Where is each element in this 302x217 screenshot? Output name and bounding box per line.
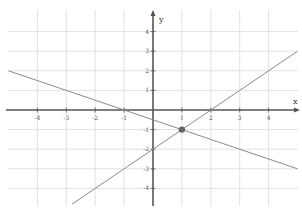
y-tick-label: -2 <box>143 145 149 152</box>
line-increasing <box>72 51 297 204</box>
x-axis-arrow-icon <box>294 108 300 113</box>
x-axis-label: x <box>293 97 298 106</box>
coordinate-plane: x y -4-3-2-112344321-1-2-3-4 <box>0 0 302 217</box>
annotations <box>179 126 185 132</box>
y-tick-label: 4 <box>145 28 149 35</box>
x-tick-label: -4 <box>34 114 40 121</box>
x-tick-label: 1 <box>180 114 184 121</box>
y-axis-arrow-icon <box>151 10 156 16</box>
x-tick-label: -1 <box>121 114 127 121</box>
x-tick-label: -3 <box>63 114 69 121</box>
x-tick-label: 4 <box>267 114 271 121</box>
intersection-point <box>179 126 185 132</box>
axes: x y <box>6 10 300 206</box>
x-tick-label: -2 <box>92 114 98 121</box>
y-tick-label: 3 <box>145 47 149 54</box>
y-tick-label: -3 <box>143 165 149 172</box>
y-tick-label: 2 <box>145 67 149 74</box>
y-tick-label: -4 <box>143 184 149 191</box>
x-tick-label: 2 <box>209 114 213 121</box>
y-axis-label: y <box>158 15 164 24</box>
x-tick-label: 3 <box>238 114 242 121</box>
y-tick-label: 1 <box>145 86 149 93</box>
y-tick-label: -1 <box>143 126 149 133</box>
